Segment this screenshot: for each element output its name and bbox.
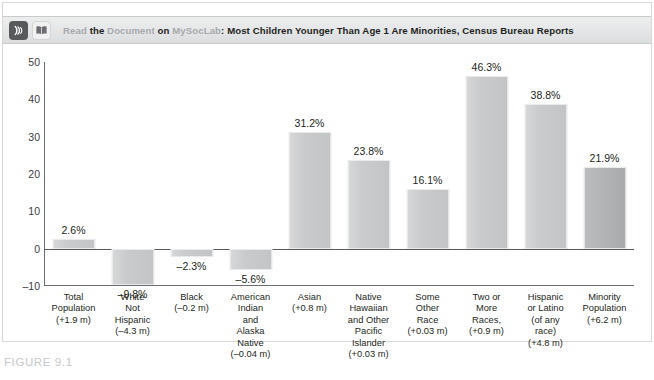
figure-container: Read the Document on MySocLab: Most Chil… <box>0 0 654 380</box>
bar-group[interactable]: –5.6% <box>221 62 280 286</box>
x-axis-category-label: AmericanIndianandAlaskaNative(–0.04 m) <box>221 292 280 360</box>
x-axis-label-line: Some <box>398 292 457 303</box>
x-axis-category-label: TotalPopulation(+1.9 m) <box>44 292 103 326</box>
y-axis-tick: 20 <box>6 168 40 180</box>
figure-caption: FIGURE 9.1 <box>4 356 73 368</box>
bar-value-label: 31.2% <box>295 117 325 129</box>
x-axis-label-line: (+1.9 m) <box>44 315 103 326</box>
x-axis-label-line: Minority <box>575 292 634 303</box>
bar[interactable] <box>229 249 272 270</box>
bar-value-label: –5.6% <box>236 273 266 285</box>
bar-group[interactable]: –9.8% <box>103 62 162 286</box>
bar[interactable] <box>288 132 331 248</box>
x-axis-category-label: Black(–0.2 m) <box>162 292 221 315</box>
banner-read-label: Read <box>63 25 87 36</box>
x-axis-label-line: White <box>103 292 162 303</box>
bar-value-label: 38.8% <box>531 89 561 101</box>
banner-mysoclab-label: MySocLab <box>172 25 221 36</box>
x-axis-category-label: WhiteNotHispanic(–4.3 m) <box>103 292 162 338</box>
y-axis-tick: 40 <box>6 93 40 105</box>
bar[interactable] <box>111 249 154 286</box>
x-axis-label-line: Population <box>44 303 103 314</box>
bar-value-label: –2.3% <box>177 260 207 272</box>
y-axis-labels: 50403020100–10 <box>0 52 40 292</box>
x-axis-label-line: More <box>457 303 516 314</box>
x-axis-label-line: Hispanic <box>516 292 575 303</box>
x-axis-label-line: Other <box>398 303 457 314</box>
x-axis-label-line: Hawaiian <box>339 303 398 314</box>
x-axis-label-line: Population <box>575 303 634 314</box>
x-axis-label-line: Alaska <box>221 326 280 337</box>
media-banner[interactable]: Read the Document on MySocLab: Most Chil… <box>3 16 651 44</box>
bar[interactable] <box>465 76 508 249</box>
x-axis-label-line: and <box>221 315 280 326</box>
x-axis-label-line: (+0.03 m) <box>339 349 398 360</box>
bar-value-label: 2.6% <box>62 224 86 236</box>
banner-text: Read the Document on MySocLab: Most Chil… <box>63 25 574 36</box>
bar-value-label: 46.3% <box>472 61 502 73</box>
x-axis-label-line: and Other <box>339 315 398 326</box>
x-axis-label-line: Asian <box>280 292 339 303</box>
bar-group[interactable]: 2.6% <box>44 62 103 286</box>
x-axis-label-line: Black <box>162 292 221 303</box>
bar[interactable] <box>583 167 626 249</box>
x-axis-labels: TotalPopulation(+1.9 m)WhiteNotHispanic(… <box>44 292 634 352</box>
audio-icon[interactable] <box>9 21 28 40</box>
x-axis-label-line: (–0.04 m) <box>221 349 280 360</box>
banner-document-label: Document <box>107 25 155 36</box>
bar-group[interactable]: 23.8% <box>339 62 398 286</box>
x-axis-label-line: Hispanic <box>103 315 162 326</box>
x-axis-label-line: (–4.3 m) <box>103 326 162 337</box>
x-axis-label-line: Not <box>103 303 162 314</box>
banner-colon: : <box>221 25 224 36</box>
x-axis-label-line: or Latino <box>516 303 575 314</box>
x-axis-label-line: Total <box>44 292 103 303</box>
x-axis-label-line: Races, <box>457 315 516 326</box>
bar[interactable] <box>52 239 95 249</box>
x-axis-label-line: Two or <box>457 292 516 303</box>
x-axis-label-line: Native <box>221 338 280 349</box>
banner-on-label: on <box>158 25 170 36</box>
x-axis-label-line: (+4.8 m) <box>516 338 575 349</box>
x-axis-label-line: Race <box>398 315 457 326</box>
x-axis-label-line: (+0.9 m) <box>457 326 516 337</box>
bar[interactable] <box>170 249 213 258</box>
bar-chart: 50403020100–10 2.6%–9.8%–2.3%–5.6%31.2%2… <box>0 52 654 292</box>
bar[interactable] <box>406 189 449 249</box>
y-axis-tick: 10 <box>6 205 40 217</box>
bar-value-label: 21.9% <box>590 152 620 164</box>
x-axis-label-line: Indian <box>221 303 280 314</box>
bar-value-label: 16.1% <box>413 174 443 186</box>
book-icon[interactable] <box>32 21 51 40</box>
bar-group[interactable]: 46.3% <box>457 62 516 286</box>
bar[interactable] <box>347 160 390 249</box>
x-axis-label-line: Pacific <box>339 326 398 337</box>
bar-value-label: 23.8% <box>354 145 384 157</box>
y-axis-tick: 50 <box>6 56 40 68</box>
x-axis-category-label: Two orMoreRaces,(+0.9 m) <box>457 292 516 338</box>
x-axis-category-label: NativeHawaiianand OtherPacificIslander(+… <box>339 292 398 360</box>
x-axis-label-line: (+0.8 m) <box>280 303 339 314</box>
x-axis-label-line: Native <box>339 292 398 303</box>
bar-group[interactable]: 21.9% <box>575 62 634 286</box>
x-axis-label-line: (–0.2 m) <box>162 303 221 314</box>
banner-headline: Most Children Younger Than Age 1 Are Min… <box>227 25 574 36</box>
bar-group[interactable]: 31.2% <box>280 62 339 286</box>
x-axis-label-line: (+6.2 m) <box>575 315 634 326</box>
bar-group[interactable]: 16.1% <box>398 62 457 286</box>
x-axis-label-line: (of any <box>516 315 575 326</box>
y-axis-tick: 0 <box>6 243 40 255</box>
x-axis-category-label: SomeOtherRace(+0.03 m) <box>398 292 457 338</box>
bar-group[interactable]: –2.3% <box>162 62 221 286</box>
x-axis-label-line: Islander <box>339 338 398 349</box>
x-axis-category-label: MinorityPopulation(+6.2 m) <box>575 292 634 326</box>
y-axis-tick: 30 <box>6 131 40 143</box>
x-axis-label-line: race) <box>516 326 575 337</box>
y-axis-tick: –10 <box>6 280 40 292</box>
bar-group[interactable]: 38.8% <box>516 62 575 286</box>
x-axis-category-label: Asian(+0.8 m) <box>280 292 339 315</box>
bar[interactable] <box>524 104 567 249</box>
x-axis-category-label: Hispanicor Latino(of anyrace)(+4.8 m) <box>516 292 575 349</box>
x-axis-label-line: (+0.03 m) <box>398 326 457 337</box>
banner-the-label: the <box>90 25 105 36</box>
